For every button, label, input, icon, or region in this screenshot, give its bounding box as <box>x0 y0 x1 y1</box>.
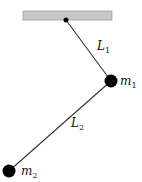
pivot-point <box>64 18 69 23</box>
label-m1: m1 <box>120 74 136 90</box>
mass-m1 <box>105 75 118 88</box>
label-l2: L2 <box>70 116 84 132</box>
label-l1: L1 <box>96 39 110 55</box>
rod-l2 <box>9 81 111 171</box>
label-m2: m2 <box>21 164 37 180</box>
double-pendulum-diagram: L1 L2 m1 m2 <box>0 0 142 182</box>
mass-m2 <box>3 165 16 178</box>
